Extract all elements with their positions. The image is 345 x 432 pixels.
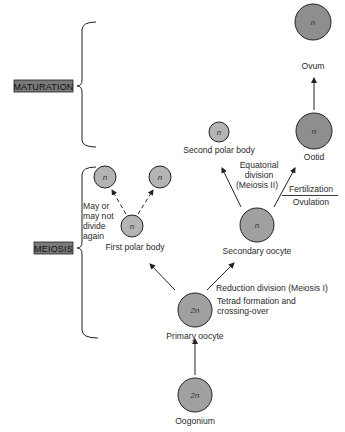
dashed-arrow-left [112, 190, 126, 214]
may-not-divide-note: May or may not divide again [83, 201, 114, 241]
ovum-label: Ovum [302, 61, 325, 71]
oogonium-label: Oogonium [175, 416, 215, 426]
svg-text:n: n [312, 127, 317, 136]
svg-text:Ovulation: Ovulation [293, 197, 330, 207]
ootid-cell: n [296, 113, 332, 149]
second-polar-body-cell: n [209, 122, 229, 142]
maturation-bracket [77, 22, 96, 147]
first-polar-body-label: First polar body [105, 242, 165, 252]
svg-text:2n: 2n [190, 391, 200, 400]
ovum-cell: n [295, 4, 331, 40]
reduction-division-note: Reduction division (Meiosis I) [216, 283, 328, 293]
svg-text:may not: may not [83, 211, 114, 221]
svg-text:(Meiosis II): (Meiosis II) [236, 180, 278, 190]
first-polar-body-cell: n [121, 215, 143, 237]
meiosis-stage-label: MEIOSIS [34, 242, 73, 254]
svg-text:Fertilization: Fertilization [289, 184, 333, 194]
primary-oocyte-label: Primary oocyte [166, 331, 224, 341]
arrow-primary-to-first-polar [150, 264, 175, 290]
svg-text:2n: 2n [190, 306, 200, 315]
svg-text:n: n [255, 221, 260, 230]
dashed-arrow-right [138, 190, 153, 214]
primary-oocyte-cell: 2n [178, 293, 212, 327]
svg-text:again: again [83, 231, 104, 241]
secondary-oocyte-label: Secondary oocyte [223, 246, 292, 256]
svg-text:n: n [130, 222, 135, 231]
secondary-oocyte-cell: n [240, 208, 274, 242]
svg-text:May or: May or [83, 201, 109, 211]
maturation-stage-label: MATURATION [13, 80, 73, 92]
equatorial-division-note: Equatorial division (Meiosis II) [236, 160, 278, 190]
polar-daughter-left-cell: n [94, 166, 116, 188]
polar-daughter-right-cell: n [149, 166, 171, 188]
svg-text:crossing-over: crossing-over [217, 306, 269, 316]
svg-text:Equatorial: Equatorial [240, 160, 279, 170]
svg-text:n: n [217, 128, 222, 137]
svg-text:n: n [158, 173, 163, 182]
oogonium-cell: 2n [178, 378, 212, 412]
svg-text:division: division [245, 170, 274, 180]
svg-text:Tetrad formation and: Tetrad formation and [217, 296, 296, 306]
svg-text:MATURATION: MATURATION [13, 82, 73, 92]
oogenesis-diagram: MATURATION MEIOSIS n Ovum n Ootid n Seco… [0, 0, 345, 432]
svg-text:n: n [103, 173, 108, 182]
svg-text:MEIOSIS: MEIOSIS [34, 244, 73, 254]
fertilization-ovulation-note: Fertilization Ovulation [282, 184, 338, 207]
svg-text:n: n [311, 18, 316, 27]
tetrad-formation-note: Tetrad formation and crossing-over [217, 296, 296, 316]
svg-text:divide: divide [83, 221, 106, 231]
ootid-label: Ootid [304, 152, 325, 162]
second-polar-body-label: Second polar body [183, 145, 255, 155]
meiosis-bracket [77, 167, 98, 338]
